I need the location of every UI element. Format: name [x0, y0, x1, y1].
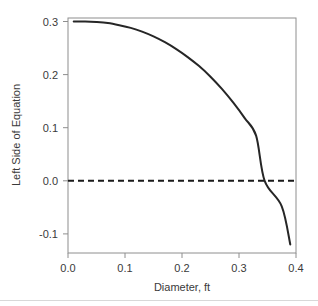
x-tick-label-1: 0.1: [117, 262, 132, 274]
x-tick-label-0: 0.0: [60, 262, 75, 274]
y-tick-label-3: 0.0: [43, 175, 58, 187]
y-tick-label-4: -0.1: [39, 228, 58, 240]
x-tick-label-3: 0.3: [231, 262, 246, 274]
chart-canvas: 0.3 0.2 0.1 0.0 -0.1 0.0 0.1 0.2 0.3 0.4…: [0, 0, 318, 306]
y-tick-label-1: 0.2: [43, 69, 58, 81]
y-tick-label-2: 0.1: [43, 122, 58, 134]
x-axis-title: Diameter, ft: [154, 281, 210, 293]
x-tick-label-2: 0.2: [174, 262, 189, 274]
figure-background: [0, 0, 318, 306]
y-axis-title: Left Side of Equation: [10, 84, 22, 186]
chart-figure: 0.3 0.2 0.1 0.0 -0.1 0.0 0.1 0.2 0.3 0.4…: [0, 0, 318, 306]
x-tick-label-4: 0.4: [288, 262, 303, 274]
y-tick-label-0: 0.3: [43, 16, 58, 28]
